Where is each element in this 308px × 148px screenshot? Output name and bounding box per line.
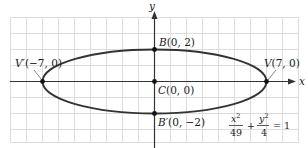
graph-canvas: y x V′(−7, 0) V(7, 0) B(0, 2) B′(0, −2) … xyxy=(0,0,308,148)
leader-v-prime xyxy=(34,70,42,80)
label-v-prime: V′(−7, 0) xyxy=(15,57,62,69)
svg-text:x2: x2 xyxy=(231,112,241,124)
ellipse-diagram: y x V′(−7, 0) V(7, 0) B(0, 2) B′(0, −2) … xyxy=(0,0,308,148)
x-axis-arrow-icon xyxy=(288,79,296,85)
label-v: V(7, 0) xyxy=(264,57,300,69)
svg-text:49: 49 xyxy=(230,127,242,138)
svg-text:4: 4 xyxy=(261,127,267,138)
point-c xyxy=(152,79,157,84)
point-b-prime xyxy=(152,111,157,116)
label-b-prime: B′(0, −2) xyxy=(157,116,205,128)
svg-text:= 1: = 1 xyxy=(273,120,290,131)
x-axis-label: x xyxy=(299,75,305,87)
point-v xyxy=(264,79,269,84)
ellipse-equation: x2 49 + y2 4 = 1 xyxy=(229,112,290,138)
point-v-prime xyxy=(40,79,45,84)
label-c: C(0, 0) xyxy=(158,84,194,96)
label-b: B(0, 2) xyxy=(158,36,195,48)
y-axis-label: y xyxy=(148,0,156,12)
svg-text:+: + xyxy=(247,120,255,131)
y-axis-arrow-icon xyxy=(152,11,158,19)
point-b xyxy=(152,47,157,52)
leader-v xyxy=(268,70,276,80)
